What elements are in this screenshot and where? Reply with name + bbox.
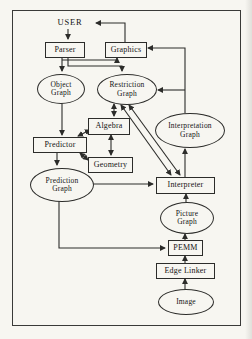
node-prediction-graph-label: Prediction Graph: [37, 177, 87, 194]
node-picture-graph: Picture Graph: [160, 202, 214, 234]
edge-parser-to-restriction-graph: [68, 56, 122, 71]
node-pemm: PEMM: [168, 240, 203, 256]
node-geometry: Geometry: [88, 157, 133, 173]
node-user-label: USER: [58, 18, 83, 28]
edge-interpretation-to-graphics: [148, 48, 185, 113]
node-interpretation-graph: Interpretation Graph: [155, 113, 225, 148]
node-algebra-label: Algebra: [95, 122, 122, 131]
edge-prediction-to-pemm: [59, 199, 165, 248]
node-parser: Parser: [45, 42, 85, 58]
edge-parser-to-graphics: [62, 58, 117, 60]
node-restriction-graph-label: Restriction Graph: [104, 81, 150, 98]
node-graphics: Graphics: [105, 42, 147, 58]
node-prediction-graph: Prediction Graph: [30, 168, 94, 202]
scanned-figure-page: USER Parser Graphics Object Graph Restri…: [0, 0, 252, 339]
node-predictor: Predictor: [33, 137, 87, 153]
node-image: Image: [158, 289, 214, 315]
node-object-graph-label: Object Graph: [43, 81, 80, 98]
node-geometry-label: Geometry: [94, 161, 128, 170]
node-edge-linker: Edge Linker: [156, 263, 215, 279]
node-image-label: Image: [176, 298, 196, 306]
node-graphics-label: Graphics: [111, 46, 141, 55]
node-parser-label: Parser: [54, 46, 75, 55]
node-interpretation-graph-label: Interpretation Graph: [163, 122, 217, 139]
node-restriction-graph: Restriction Graph: [97, 74, 157, 105]
node-predictor-label: Predictor: [44, 141, 75, 150]
node-interpreter: Interpreter: [156, 177, 215, 194]
node-interpreter-label: Interpreter: [168, 181, 204, 190]
node-user: USER: [50, 18, 90, 28]
node-object-graph: Object Graph: [37, 74, 85, 104]
node-edge-linker-label: Edge Linker: [165, 267, 207, 276]
node-picture-graph-label: Picture Graph: [166, 210, 208, 227]
node-pemm-label: PEMM: [173, 244, 197, 253]
edge-graphics-to-user: [96, 23, 125, 42]
edge-predictor-geometry: [80, 153, 88, 160]
node-algebra: Algebra: [88, 118, 130, 135]
